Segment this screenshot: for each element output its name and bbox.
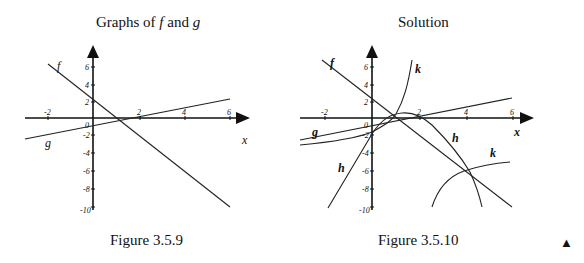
x-axis-arrow-icon [236,112,250,124]
end-of-example-marker: ▲ [560,235,573,251]
y-tick-label: 0 [364,121,368,130]
y-tick-label: 0 [85,121,89,130]
y-tick-label: 4 [364,81,368,90]
label-k: k [490,146,496,160]
label-h: h [452,131,459,145]
figure-3-5-9: Graphs of f and g -2 2 4 6 6 4 2 [0,0,292,263]
y-tick-label: -10 [359,206,370,215]
curve-g [300,98,512,140]
label-f: f [330,56,335,70]
y-tick-label: -8 [83,185,90,194]
x-axis-arrow-icon [520,112,534,124]
y-tick-label: -6 [362,167,369,176]
label-g: g [311,125,318,139]
curve-f [322,60,512,207]
y-axis-arrow-icon [87,45,99,58]
x-tick-label: -2 [321,108,328,117]
x-axis-label: x [513,125,520,139]
x-axis-label: x [241,133,248,147]
y-tick-label: 4 [85,81,89,90]
label-k: k [415,62,421,76]
curve-k-branch [432,162,510,207]
y-tick-label: -4 [83,149,90,158]
x-tick-label: 4 [182,108,186,117]
y-axis-arrow-icon [366,45,378,58]
figure-3-5-10: Solution -2 2 4 6 6 4 [292,0,584,263]
y-tick-label: -6 [83,167,90,176]
label-g: g [45,136,51,150]
x-tick-label: 6 [227,108,231,117]
graph-solution: -2 2 4 6 6 4 2 0 -2 -4 -6 -8 -10 f g k h… [292,0,584,263]
label-f: f [57,59,62,73]
y-tick-label: -4 [362,149,369,158]
curve-h [328,113,482,208]
x-tick-label: 2 [417,108,421,117]
y-tick-label: 2 [364,98,368,107]
x-tick-label: -2 [44,108,51,117]
x-tick-label: 6 [510,108,514,117]
x-tick-label: 2 [137,108,141,117]
curve-f [48,64,230,207]
y-tick-label: 6 [85,63,89,72]
figure-caption: Figure 3.5.9 [110,232,183,249]
y-tick-label: 2 [85,98,89,107]
y-tick-label: -2 [83,131,90,140]
x-tick-label: 4 [464,108,468,117]
y-tick-label: -8 [362,185,369,194]
graph-f-g: -2 2 4 6 6 4 2 0 -2 -4 -6 -8 -10 f g x [0,0,292,263]
y-tick-label: 6 [364,63,368,72]
label-h: h [338,161,345,175]
figure-caption: Figure 3.5.10 [378,232,458,249]
y-tick-label: -10 [80,206,91,215]
curve-g [25,99,230,139]
y-tick-label: -2 [362,131,369,140]
